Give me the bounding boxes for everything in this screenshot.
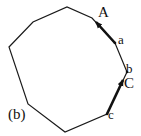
vector-label-A: A (98, 5, 109, 20)
point-label-c: c (108, 108, 114, 121)
vector-label-C: C (124, 76, 134, 91)
point-a-dot (114, 42, 117, 45)
point-label-b: b (126, 62, 133, 75)
point-label-a: a (118, 33, 124, 46)
figure-label: (b) (8, 107, 26, 122)
vector-A-arrow (96, 22, 115, 43)
